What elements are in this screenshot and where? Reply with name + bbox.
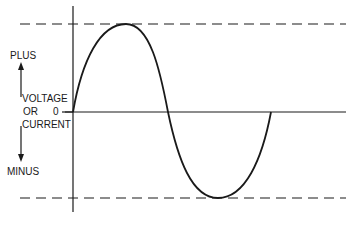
or-label: OR — [23, 107, 38, 117]
current-label: CURRENT — [22, 120, 71, 130]
zero-label: 0 — [53, 107, 59, 117]
up-arrow-icon — [18, 62, 24, 70]
down-arrow-icon — [18, 154, 24, 162]
voltage-label: VOLTAGE — [22, 94, 68, 104]
minus-label: MINUS — [7, 167, 39, 177]
sine-wave-curve — [73, 24, 271, 198]
plus-label: PLUS — [10, 51, 36, 61]
